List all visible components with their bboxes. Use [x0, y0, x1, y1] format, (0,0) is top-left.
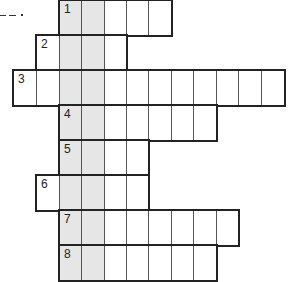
grid-cell[interactable] [126, 105, 149, 141]
grid-cell[interactable] [81, 175, 105, 211]
grid-cell[interactable] [81, 35, 105, 71]
grid-cell[interactable] [36, 70, 60, 106]
grid-cell[interactable] [261, 70, 285, 106]
grid-cell[interactable] [104, 140, 127, 176]
grid-cell[interactable] [81, 245, 105, 281]
grid-cell[interactable] [126, 210, 149, 246]
grid-cell[interactable] [81, 140, 105, 176]
grid-cell[interactable] [193, 105, 217, 141]
grid-cell[interactable] [81, 0, 105, 36]
clue-number: 7 [64, 213, 71, 225]
grid-cell[interactable] [238, 70, 262, 106]
grid-cell[interactable] [171, 210, 194, 246]
grid-cell[interactable]: 8 [59, 245, 82, 281]
grid-cell[interactable] [148, 0, 172, 36]
grid-cell[interactable]: 2 [36, 35, 60, 71]
grid-cell[interactable] [193, 210, 217, 246]
clue-number: 6 [41, 178, 48, 190]
grid-cell[interactable] [126, 175, 149, 211]
clue-number: 5 [64, 143, 71, 155]
grid-cell[interactable] [171, 245, 194, 281]
dot-mark [21, 14, 23, 16]
grid-cell[interactable] [148, 210, 172, 246]
grid-cell[interactable]: 3 [13, 70, 37, 106]
grid-cell[interactable] [193, 245, 217, 281]
grid-cell[interactable]: 1 [59, 0, 82, 36]
grid-cell[interactable] [193, 70, 217, 106]
grid-cell[interactable] [171, 70, 194, 106]
grid-cell[interactable]: 4 [59, 105, 82, 141]
grid-cell[interactable] [126, 245, 149, 281]
dash-mark [9, 15, 16, 16]
grid-cell[interactable] [104, 35, 127, 71]
grid-cell[interactable] [59, 70, 82, 106]
grid-cell[interactable] [81, 70, 105, 106]
grid-cell[interactable]: 5 [59, 140, 82, 176]
grid-cell[interactable] [104, 70, 127, 106]
clue-number: 1 [64, 3, 71, 15]
grid-cell[interactable] [59, 35, 82, 71]
grid-cell[interactable] [104, 245, 127, 281]
grid-cell[interactable] [81, 210, 105, 246]
grid-cell[interactable] [126, 70, 149, 106]
grid-cell[interactable] [216, 70, 239, 106]
clue-number: 3 [18, 73, 25, 85]
grid-cell[interactable] [148, 245, 172, 281]
grid-cell[interactable] [126, 0, 149, 36]
grid-cell[interactable] [148, 70, 172, 106]
grid-cell[interactable] [148, 105, 172, 141]
grid-cell[interactable] [104, 105, 127, 141]
grid-cell[interactable] [216, 210, 239, 246]
grid-cell[interactable] [81, 105, 105, 141]
grid-cell[interactable] [104, 175, 127, 211]
grid-cell[interactable] [126, 140, 149, 176]
clue-number: 8 [64, 248, 71, 260]
grid-cell[interactable]: 6 [36, 175, 60, 211]
grid-cell[interactable] [171, 105, 194, 141]
grid-cell[interactable] [59, 175, 82, 211]
clue-number: 2 [41, 38, 48, 50]
grid-cell[interactable] [104, 0, 127, 36]
clue-number: 4 [64, 108, 71, 120]
grid-cell[interactable]: 7 [59, 210, 82, 246]
dash-mark [0, 15, 6, 16]
grid-cell[interactable] [104, 210, 127, 246]
